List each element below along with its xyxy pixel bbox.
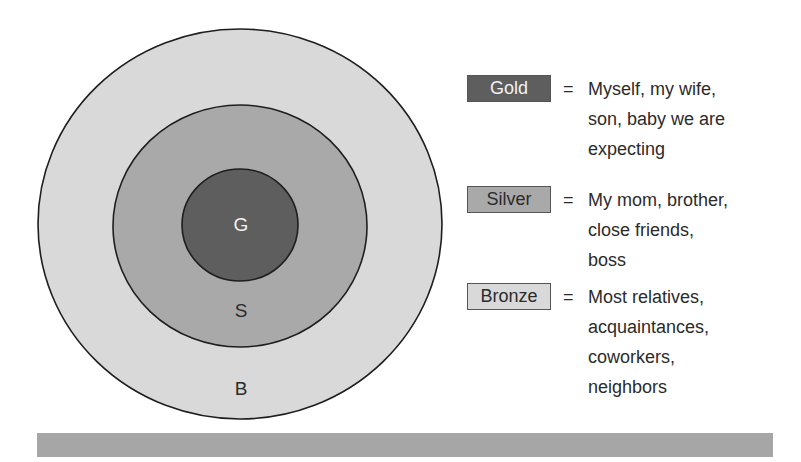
- bronze-description: Most relatives, acquaintances, coworkers…: [588, 282, 801, 402]
- silver-swatch: Silver: [467, 186, 551, 213]
- gold-ring-label: G: [221, 215, 261, 234]
- legend-item-gold: Gold = Myself, my wife, son, baby we are…: [467, 75, 797, 167]
- description-line: son, baby we are: [588, 104, 801, 134]
- description-line: Most relatives,: [588, 282, 801, 312]
- equals-sign: =: [563, 283, 574, 311]
- bottom-divider-bar: [37, 433, 773, 457]
- bronze-swatch: Bronze: [467, 283, 551, 310]
- bronze-ring-label: B: [221, 379, 261, 398]
- gold-swatch: Gold: [467, 75, 551, 102]
- description-line: boss: [588, 245, 801, 275]
- description-line: My mom, brother,: [588, 185, 801, 215]
- description-line: Myself, my wife,: [588, 74, 801, 104]
- gold-description: Myself, my wife, son, baby we are expect…: [588, 74, 801, 164]
- equals-sign: =: [563, 75, 574, 103]
- description-line: close friends,: [588, 215, 801, 245]
- legend-item-bronze: Bronze = Most relatives, acquaintances, …: [467, 283, 797, 405]
- description-line: expecting: [588, 134, 801, 164]
- legend-item-silver: Silver = My mom, brother, close friends,…: [467, 186, 797, 278]
- equals-sign: =: [563, 186, 574, 214]
- description-line: neighbors: [588, 372, 801, 402]
- silver-description: My mom, brother, close friends, boss: [588, 185, 801, 275]
- silver-ring-label: S: [221, 301, 261, 320]
- description-line: coworkers,: [588, 342, 801, 372]
- relationship-circles-diagram: G S B Gold = Myself, my wife, son, baby …: [0, 0, 801, 462]
- description-line: acquaintances,: [588, 312, 801, 342]
